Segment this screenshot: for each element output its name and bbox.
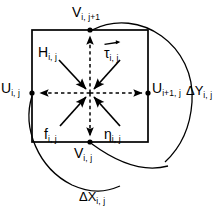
label-u-right: Ui+1, j	[152, 80, 181, 97]
vector-overbar-arrow-icon	[104, 40, 121, 46]
label-f-center: fi, j	[44, 126, 57, 143]
diagram-canvas	[0, 0, 224, 217]
grid-cell-diagram: Vi, j+1 Vi, j Ui, j Ui+1, j Hi, j τi, j …	[0, 0, 224, 217]
label-eta-center: ηi, j	[104, 126, 121, 143]
grid-point-dot-v-top	[87, 27, 92, 32]
label-v-bottom: Vi, j	[74, 145, 92, 162]
grid-point-dot-u-left	[29, 90, 34, 95]
label-h-center: Hi, j	[38, 44, 57, 61]
leader-arrow-h	[59, 60, 86, 89]
grid-point-dot-v-bottom	[87, 139, 92, 144]
grid-point-dot-u-right	[145, 90, 150, 95]
label-delta-x: ΔXi, j	[79, 188, 105, 205]
label-v-top: Vi, j+1	[72, 4, 100, 21]
leader-arrow-tau	[94, 60, 120, 89]
leader-arrow-eta	[94, 97, 120, 126]
delta-x-dimension-arc-right	[92, 144, 168, 168]
label-tau-center: τi, j	[104, 45, 118, 62]
leader-arrow-f	[60, 97, 86, 126]
label-delta-y: ΔYi, j	[186, 82, 212, 99]
label-u-left: Ui, j	[1, 80, 20, 97]
